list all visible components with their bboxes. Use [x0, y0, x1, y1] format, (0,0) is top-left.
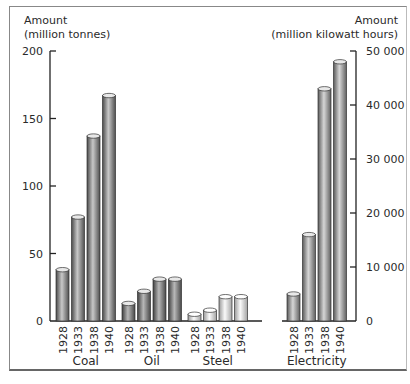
year-label: 1933 [138, 326, 151, 354]
year-label: 1938 [154, 326, 167, 354]
left-tick-label: 200 [22, 45, 43, 58]
bar-steel-1938 [219, 295, 232, 322]
year-label: 1933 [72, 326, 85, 354]
group-label-steel: Steel [203, 354, 233, 368]
year-label: 1940 [103, 326, 116, 354]
category-labels: 1928193319381940Coal1928193319381940Oil1… [57, 326, 348, 368]
bars [56, 60, 347, 321]
year-label: 1928 [288, 326, 301, 354]
group-label-electricity: Electricity [287, 354, 347, 368]
year-label: 1928 [123, 326, 136, 354]
bar-coal-1940 [103, 93, 116, 321]
bar-coal-1928 [56, 268, 69, 322]
bar-oil-1938 [153, 277, 166, 321]
year-label: 1933 [303, 326, 316, 354]
year-label: 1933 [204, 326, 217, 354]
bar-coal-1933 [72, 215, 85, 321]
bar-oil-1933 [138, 289, 151, 321]
bar-oil-1928 [122, 301, 135, 321]
year-label: 1940 [169, 326, 182, 354]
year-label: 1928 [57, 326, 70, 354]
right-tick-label: 20 000 [366, 207, 405, 220]
bar-electricity-1928 [287, 292, 300, 321]
right-axis-title-line1: Amount [355, 14, 399, 27]
right-axis-title-line2: (million kilowatt hours) [271, 28, 398, 41]
group-label-coal: Coal [73, 354, 99, 368]
right-tick-label: 50 000 [366, 45, 405, 58]
right-tick-label: 40 000 [366, 99, 405, 112]
bar-coal-1938 [87, 134, 100, 321]
bar-oil-1940 [169, 277, 182, 321]
year-label: 1940 [235, 326, 248, 354]
year-label: 1928 [189, 326, 202, 354]
bar-electricity-1933 [303, 232, 316, 321]
bar-steel-1933 [204, 308, 217, 321]
year-label: 1938 [88, 326, 101, 354]
year-label: 1940 [334, 326, 347, 354]
bar-electricity-1938 [318, 87, 331, 321]
bar-steel-1928 [188, 312, 201, 321]
year-label: 1938 [220, 326, 233, 354]
group-label-oil: Oil [144, 354, 160, 368]
bar-steel-1940 [235, 295, 248, 322]
right-tick-label: 30 000 [366, 153, 405, 166]
left-axis-title-line2: (million tonnes) [24, 28, 110, 41]
left-tick-label: 0 [36, 315, 43, 328]
left-tick-label: 100 [22, 180, 43, 193]
bar-chart: Amount (million tonnes) Amount (million … [0, 0, 410, 384]
right-tick-label: 10 000 [366, 261, 405, 274]
left-tick-label: 50 [29, 248, 43, 261]
bar-electricity-1940 [334, 60, 347, 321]
right-tick-label: 0 [366, 315, 373, 328]
year-label: 1938 [319, 326, 332, 354]
left-axis-title-line1: Amount [24, 14, 68, 27]
left-tick-label: 150 [22, 113, 43, 126]
